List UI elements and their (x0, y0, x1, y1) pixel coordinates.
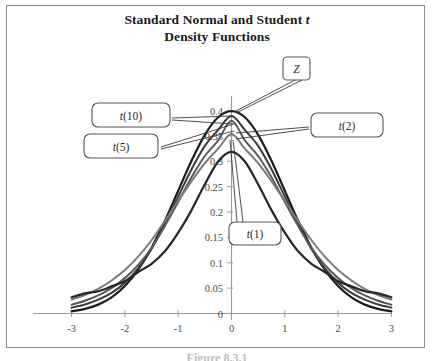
y-tick-label: 0.2 (210, 207, 223, 218)
callout-z-label: Z (293, 63, 300, 75)
y-tick-label: 0.1 (210, 258, 223, 269)
figure-page: Standard Normal and Student t Density Fu… (0, 0, 434, 361)
callout-t10[interactable]: t(10) (92, 103, 170, 127)
leader-line-t1-2 (233, 140, 243, 222)
callout-t1-label: t(1) (247, 228, 264, 241)
x-tick-label: 2 (335, 323, 340, 334)
leader-line-z (236, 78, 299, 111)
y-tick-label: 0.05 (205, 283, 223, 294)
leader-line-t10 (172, 116, 233, 118)
callout-z[interactable]: Z (283, 57, 310, 80)
callout-t10-label: t(10) (120, 110, 143, 123)
figure-caption: Figure 8.3.1 (0, 351, 434, 361)
y-tick-label: 0.25 (205, 182, 223, 193)
callout-t5[interactable]: t(5) (84, 134, 158, 158)
leader-line-z-2 (236, 80, 302, 113)
leader-line-t2-2 (236, 129, 309, 139)
callout-t2[interactable]: t(2) (311, 113, 383, 137)
callout-t1[interactable]: t(1) (229, 222, 281, 245)
callout-t2-label: t(2) (339, 120, 356, 133)
x-axis-tick-labels: -3-2-10123 (67, 323, 394, 334)
density-plot: 00.050.10.150.20.250.30.350.4 -3-2-10123… (0, 0, 434, 361)
x-tick-label: -3 (67, 323, 76, 334)
x-tick-label: -2 (121, 323, 130, 334)
x-tick-label: 3 (389, 323, 394, 334)
y-tick-label: 0 (218, 309, 223, 320)
callout-t5-label: t(5) (113, 141, 130, 154)
x-tick-label: 1 (282, 323, 287, 334)
x-tick-label: -1 (174, 323, 183, 334)
y-tick-label: 0.15 (205, 232, 223, 243)
leader-line-t2 (236, 127, 309, 133)
x-tick-label: 0 (229, 323, 234, 334)
